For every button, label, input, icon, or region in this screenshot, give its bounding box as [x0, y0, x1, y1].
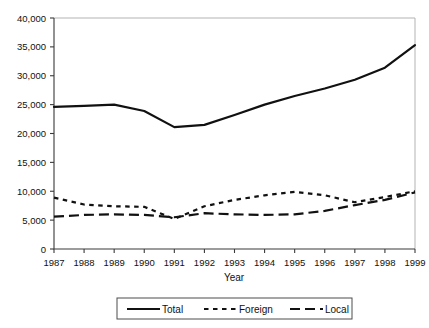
x-axis-tick-label: 1989	[104, 257, 125, 268]
x-axis-tick-label: 1996	[314, 257, 335, 268]
y-axis-tick-label: 30,000	[17, 70, 46, 81]
y-axis-tick-label: 40,000	[17, 13, 46, 24]
x-axis-title: Year	[224, 272, 245, 283]
x-axis-tick-label: 1987	[43, 257, 64, 268]
x-axis-tick-label: 1993	[224, 257, 245, 268]
legend-label-foreign: Foreign	[239, 304, 273, 315]
series-line-total	[54, 45, 415, 127]
x-axis-tick-label: 1990	[134, 257, 155, 268]
y-axis-tick-label: 35,000	[17, 41, 46, 52]
legend-label-total: Total	[162, 304, 183, 315]
x-axis-tick-labels: 1987198819891990199119921993199419951996…	[43, 257, 425, 268]
y-axis-ticks	[50, 18, 54, 249]
x-axis-tick-label: 1995	[284, 257, 305, 268]
y-axis-tick-labels: 05,00010,00015,00020,00025,00030,00035,0…	[17, 13, 46, 255]
legend-label-local: Local	[325, 304, 349, 315]
y-axis-tick-label: 5,000	[22, 215, 46, 226]
x-axis-tick-label: 1994	[254, 257, 275, 268]
x-axis-ticks	[54, 249, 415, 253]
line-chart: 05,00010,00015,00020,00025,00030,00035,0…	[0, 0, 429, 328]
x-axis-tick-label: 1988	[74, 257, 95, 268]
x-axis-tick-label: 1991	[164, 257, 185, 268]
x-axis-tick-label: 1999	[404, 257, 425, 268]
y-axis-tick-label: 20,000	[17, 128, 46, 139]
x-axis-tick-label: 1992	[194, 257, 215, 268]
y-axis-tick-label: 10,000	[17, 186, 46, 197]
y-axis-tick-label: 25,000	[17, 99, 46, 110]
x-axis-tick-label: 1998	[374, 257, 395, 268]
y-axis-tick-label: 0	[41, 244, 46, 255]
x-axis-tick-label: 1997	[344, 257, 365, 268]
data-series-group	[54, 45, 415, 219]
chart-legend: Total Foreign Local	[117, 298, 352, 319]
y-axis-tick-label: 15,000	[17, 157, 46, 168]
